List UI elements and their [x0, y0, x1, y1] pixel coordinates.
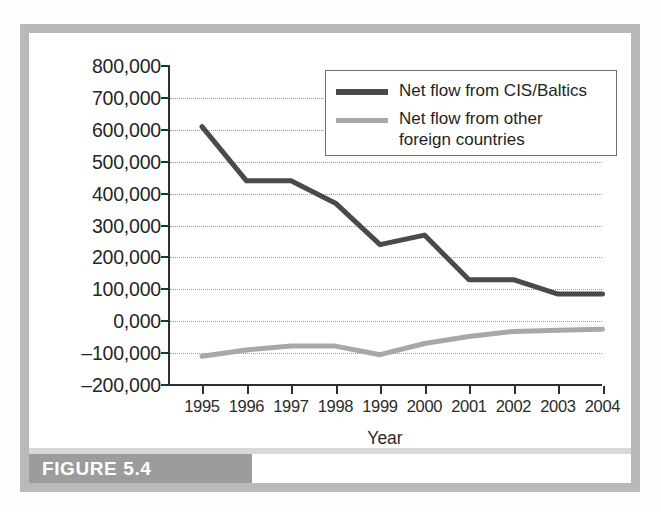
y-axis-tick-label: –200,000 — [81, 374, 161, 397]
y-axis-tick-label: 500,000 — [92, 150, 161, 173]
y-axis-tick-label: 200,000 — [92, 246, 161, 269]
legend-item-other-foreign: Net flow from other foreign countries — [336, 108, 543, 150]
figure-page: 800,000700,000600,000500,000400,000300,0… — [0, 0, 661, 512]
chart-axes: 1995199619971998199920002001200220032004… — [168, 33, 636, 448]
y-axis-tick-label: 800,000 — [92, 55, 161, 78]
legend-swatch-icon-series-2 — [336, 118, 388, 123]
y-axis-tick-label: 400,000 — [92, 182, 161, 205]
chart-legend: Net flow from CIS/Baltics Net flow from … — [325, 70, 617, 156]
legend-label-series-1: Net flow from CIS/Baltics — [399, 80, 587, 101]
y-axis-tick-label: 0,000 — [113, 310, 161, 333]
y-axis-tick-label: –100,000 — [81, 342, 161, 365]
legend-label-series-2: Net flow from other foreign countries — [399, 108, 543, 150]
chart-plot-area: 800,000700,000600,000500,000400,000300,0… — [29, 33, 631, 448]
x-axis-title: Year — [168, 428, 602, 449]
legend-item-cis-baltics: Net flow from CIS/Baltics — [336, 80, 587, 101]
y-axis-tick-label: 600,000 — [92, 118, 161, 141]
figure-caption-text: FIGURE 5.4 — [42, 458, 151, 480]
y-axis-tick-label: 100,000 — [92, 278, 161, 301]
legend-swatch-icon-series-1 — [336, 89, 388, 95]
series-line-2 — [202, 329, 603, 356]
y-axis-labels: 800,000700,000600,000500,000400,000300,0… — [29, 33, 161, 448]
figure-caption-band: FIGURE 5.4 — [29, 454, 252, 483]
y-axis-tick-label: 300,000 — [92, 214, 161, 237]
y-axis-tick-label: 700,000 — [92, 86, 161, 109]
